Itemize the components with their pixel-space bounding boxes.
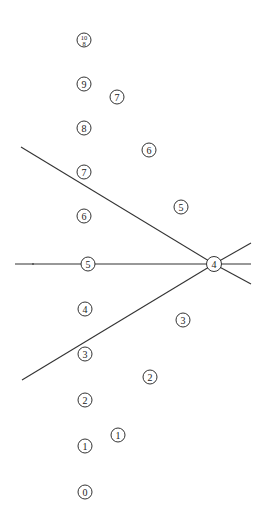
node-label: 0 bbox=[83, 487, 88, 498]
node-right-5: 5 bbox=[174, 200, 188, 214]
node-right-6: 6 bbox=[142, 143, 156, 157]
node-label: 3 bbox=[83, 349, 88, 360]
node-left-10-8: 108 bbox=[77, 33, 91, 47]
node-label: 2 bbox=[148, 372, 153, 383]
node-left-9: 9 bbox=[77, 77, 91, 91]
diagram-stage: 10898765432107654321 bbox=[0, 0, 264, 529]
node-label: 1 bbox=[83, 441, 88, 452]
node-label: 1 bbox=[116, 430, 121, 441]
node-label: 3 bbox=[181, 315, 186, 326]
node-left-0: 0 bbox=[78, 485, 92, 499]
node-label: 8 bbox=[82, 123, 87, 134]
node-label: 7 bbox=[82, 167, 87, 178]
node-left-8: 8 bbox=[77, 121, 91, 135]
node-right-3: 3 bbox=[176, 313, 190, 327]
node-left-5: 5 bbox=[81, 257, 95, 271]
node-left-2: 2 bbox=[78, 393, 92, 407]
node-label: 2 bbox=[83, 395, 88, 406]
node-left-7: 7 bbox=[77, 165, 91, 179]
node-right-7: 7 bbox=[110, 90, 124, 104]
node-label: 6 bbox=[82, 211, 87, 222]
node-label: 5 bbox=[86, 259, 91, 270]
node-label-bottom: 8 bbox=[82, 40, 85, 47]
node-left-1: 1 bbox=[78, 439, 92, 453]
node-left-4: 4 bbox=[78, 302, 92, 316]
node-label: 9 bbox=[82, 79, 87, 90]
node-label: 6 bbox=[147, 145, 152, 156]
node-left-6: 6 bbox=[77, 209, 91, 223]
node-right-2: 2 bbox=[143, 370, 157, 384]
node-left-3: 3 bbox=[78, 347, 92, 361]
node-right-4: 4 bbox=[207, 257, 222, 272]
node-label: 4 bbox=[83, 304, 88, 315]
node-right-1: 1 bbox=[111, 428, 125, 442]
worldline-diagram: 10898765432107654321 bbox=[0, 0, 264, 529]
node-label: 4 bbox=[212, 259, 217, 270]
node-label: 5 bbox=[179, 202, 184, 213]
node-label: 7 bbox=[115, 92, 120, 103]
